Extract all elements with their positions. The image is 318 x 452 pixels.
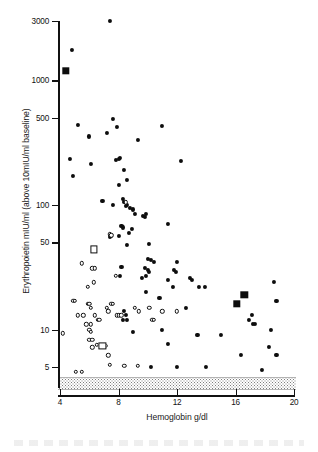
data-point-filled-circle: [119, 265, 123, 269]
y-tick-5: [52, 367, 58, 368]
data-point-filled-circle: [252, 322, 256, 326]
data-point-filled-circle: [144, 212, 148, 216]
data-point-filled-circle: [149, 365, 153, 369]
x-ticklabel-4: 4: [58, 398, 62, 407]
data-point-filled-circle: [135, 138, 139, 142]
data-point-filled-circle: [250, 313, 254, 317]
data-point-filled-circle: [160, 124, 164, 128]
y-ticklabel-5: 5: [0, 363, 49, 372]
x-tick-20: [294, 389, 295, 395]
data-point-open-circle: [93, 266, 97, 270]
caption-smudge: [14, 440, 304, 446]
x-axis-title: Hemoglobin g/dl: [58, 412, 296, 422]
data-point-filled-circle: [116, 157, 120, 161]
y-ticklabel-10: 10: [0, 325, 49, 334]
data-point-filled-circle: [171, 285, 175, 289]
data-point-filled-circle: [179, 159, 183, 163]
data-point-filled-circle: [89, 162, 93, 166]
y-ticklabel-3000: 3000: [0, 17, 49, 26]
data-point-filled-circle: [239, 353, 243, 357]
x-ticklabel-16: 16: [231, 398, 240, 407]
data-point-open-circle: [147, 305, 151, 309]
data-point-open-circle: [106, 309, 110, 313]
data-point-open-square: [99, 342, 106, 349]
data-point-filled-circle: [247, 318, 251, 322]
data-point-filled-circle: [267, 344, 271, 348]
data-point-filled-circle: [147, 242, 151, 246]
data-point-filled-circle: [68, 157, 72, 161]
data-point-filled-circle: [122, 168, 126, 172]
data-point-filled-square: [62, 67, 69, 74]
data-point-filled-circle: [116, 234, 120, 238]
data-point-open-circle: [89, 330, 93, 334]
data-point-open-circle: [108, 363, 112, 367]
data-point-open-circle: [86, 285, 90, 289]
data-point-filled-circle: [274, 353, 278, 357]
data-point-filled-circle: [108, 19, 112, 23]
y-tick-1000: [52, 80, 58, 81]
data-point-filled-square: [241, 291, 248, 298]
data-point-filled-circle: [125, 318, 129, 322]
data-point-filled-circle: [131, 330, 135, 334]
data-point-open-circle: [137, 309, 141, 313]
data-point-filled-circle: [166, 222, 170, 226]
data-point-filled-circle: [100, 199, 104, 203]
data-point-filled-circle: [271, 280, 275, 284]
data-point-filled-circle: [125, 243, 129, 247]
data-point-filled-circle: [203, 285, 207, 289]
data-point-filled-circle: [144, 274, 148, 278]
data-point-filled-circle: [152, 260, 156, 264]
x-tick-16: [236, 389, 237, 395]
data-point-filled-circle: [260, 368, 264, 372]
data-point-open-circle: [160, 309, 164, 313]
data-point-open-circle: [151, 317, 155, 321]
y-axis-title: Erythropoietin mIU/ml (above 10mIU/ml ba…: [21, 83, 31, 319]
data-point-filled-circle: [133, 212, 137, 216]
data-point-open-circle: [97, 317, 101, 321]
x-ticklabel-12: 12: [173, 398, 182, 407]
data-point-open-circle: [175, 309, 179, 313]
data-point-open-circle: [89, 322, 93, 326]
data-point-filled-circle: [111, 203, 115, 207]
data-point-filled-circle: [125, 177, 129, 181]
x-ticklabel-20: 20: [290, 398, 299, 407]
data-point-open-circle: [80, 369, 84, 373]
data-point-open-circle: [113, 274, 117, 278]
data-point-filled-circle: [76, 123, 80, 127]
data-point-filled-circle: [87, 134, 91, 138]
y-axis-line: [58, 21, 60, 388]
data-point-filled-circle: [147, 270, 151, 274]
data-point-open-circle: [89, 305, 93, 309]
x-tick-8: [119, 389, 120, 395]
data-point-filled-circle: [197, 285, 201, 289]
data-point-filled-circle: [195, 333, 199, 337]
data-point-filled-circle: [144, 290, 148, 294]
data-point-filled-circle: [175, 260, 179, 264]
data-point-filled-circle: [70, 48, 74, 52]
data-point-filled-circle: [184, 306, 188, 310]
data-point-filled-circle: [118, 274, 122, 278]
data-point-filled-circle: [166, 342, 170, 346]
data-point-open-circle: [135, 364, 139, 368]
data-point-filled-circle: [130, 227, 134, 231]
y-tick-100: [52, 205, 58, 206]
data-point-filled-circle: [160, 327, 164, 331]
y-tick-50: [52, 242, 58, 243]
y-tick-500: [52, 118, 58, 119]
data-point-filled-circle: [219, 333, 223, 337]
data-point-open-circle: [61, 331, 65, 335]
data-point-filled-circle: [204, 365, 208, 369]
data-point-filled-circle: [274, 299, 278, 303]
data-point-filled-circle: [269, 327, 273, 331]
data-point-open-circle: [110, 302, 114, 306]
y-tick-10: [52, 330, 58, 331]
data-point-open-square: [90, 246, 97, 253]
data-point-open-circle: [90, 345, 94, 349]
data-point-open-circle: [90, 337, 94, 341]
x-ticklabel-8: 8: [116, 398, 120, 407]
data-point-open-circle: [122, 364, 126, 368]
data-point-open-circle: [75, 313, 79, 317]
x-tick-4: [60, 389, 61, 395]
data-point-open-circle: [72, 299, 76, 303]
data-point-filled-circle: [71, 174, 75, 178]
